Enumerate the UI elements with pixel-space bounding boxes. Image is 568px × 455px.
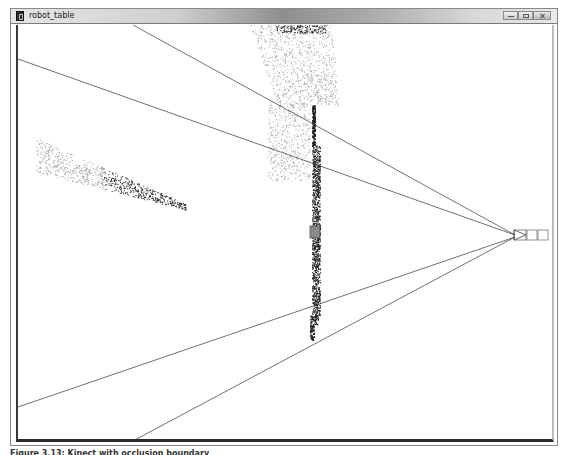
- cloud-point: [301, 145, 302, 146]
- cloud-point: [133, 190, 134, 191]
- maximize-button[interactable]: [518, 11, 533, 20]
- cloud-point: [141, 196, 142, 197]
- cloud-point: [310, 29, 311, 30]
- cloud-point: [292, 66, 293, 67]
- cloud-point: [289, 168, 290, 169]
- cloud-point: [59, 152, 60, 153]
- cloud-point: [294, 135, 295, 136]
- cloud-point: [280, 39, 281, 40]
- cloud-point: [153, 191, 154, 192]
- cloud-point: [304, 72, 305, 73]
- cloud-point: [319, 95, 320, 96]
- cloud-point: [325, 80, 326, 81]
- cloud-point: [318, 193, 319, 194]
- cloud-point: [316, 32, 317, 33]
- cloud-point: [320, 245, 321, 246]
- title-bar[interactable]: robot_table: [11, 9, 557, 24]
- cloud-point: [311, 328, 312, 329]
- cloud-point: [280, 172, 281, 173]
- cloud-point: [110, 181, 111, 182]
- cloud-point: [75, 170, 76, 171]
- cloud-point: [318, 271, 319, 272]
- cloud-point: [285, 58, 286, 59]
- cloud-point: [315, 302, 316, 303]
- cloud-point: [319, 261, 320, 262]
- cloud-point: [257, 38, 258, 39]
- cloud-point: [319, 298, 320, 299]
- cloud-point: [306, 30, 307, 31]
- cloud-point: [317, 177, 318, 178]
- cloud-point: [317, 95, 318, 96]
- cloud-point: [281, 118, 282, 119]
- cloud-point: [314, 88, 315, 89]
- cloud-point: [49, 144, 50, 145]
- point-cloud-canvas[interactable]: [18, 25, 554, 442]
- cloud-point: [335, 80, 336, 81]
- cloud-point: [289, 157, 290, 158]
- cloud-point: [98, 166, 99, 167]
- cloud-point: [301, 87, 302, 88]
- cloud-point: [153, 200, 154, 201]
- cloud-point: [320, 148, 321, 149]
- cloud-point: [314, 167, 315, 168]
- cloud-point: [284, 89, 285, 90]
- cloud-point: [294, 27, 295, 28]
- cloud-point: [160, 201, 161, 202]
- cloud-point: [273, 181, 274, 182]
- cloud-point: [284, 26, 285, 27]
- cloud-point: [301, 54, 302, 55]
- cloud-point: [84, 160, 85, 161]
- cloud-point: [61, 176, 62, 177]
- cloud-point: [313, 109, 314, 110]
- cloud-point: [338, 105, 339, 106]
- cloud-point: [317, 266, 318, 267]
- cloud-point: [56, 148, 57, 149]
- cloud-point: [141, 192, 142, 193]
- cloud-point: [314, 274, 315, 275]
- minimize-button[interactable]: [503, 11, 518, 20]
- cloud-point: [304, 172, 305, 173]
- cloud-point: [320, 206, 321, 207]
- cloud-point: [286, 77, 287, 78]
- cloud-point: [118, 184, 119, 185]
- cloud-point: [112, 181, 113, 182]
- close-button[interactable]: [533, 11, 551, 20]
- cloud-point: [294, 25, 295, 26]
- cloud-point: [312, 219, 313, 220]
- 3d-viewport[interactable]: [16, 25, 554, 442]
- cloud-point: [279, 107, 280, 108]
- cloud-point: [171, 197, 172, 198]
- cloud-point: [261, 50, 262, 51]
- cloud-point: [155, 201, 156, 202]
- cloud-point: [263, 29, 264, 30]
- cloud-point: [313, 203, 314, 204]
- cloud-point: [123, 185, 124, 186]
- cloud-point: [123, 182, 124, 183]
- cloud-point: [290, 89, 291, 90]
- cloud-point: [279, 34, 280, 35]
- cloud-point: [284, 110, 285, 111]
- cloud-point: [283, 72, 284, 73]
- cloud-point: [277, 125, 278, 126]
- cloud-point: [278, 26, 279, 27]
- cloud-point: [111, 185, 112, 186]
- cloud-point: [264, 40, 265, 41]
- cloud-point: [182, 208, 183, 209]
- cloud-point: [312, 319, 313, 320]
- cloud-point: [280, 130, 281, 131]
- cloud-point: [299, 148, 300, 149]
- cloud-point: [331, 93, 332, 94]
- cloud-point: [39, 144, 40, 145]
- cloud-point: [48, 158, 49, 159]
- cloud-point: [128, 182, 129, 183]
- cloud-point: [316, 258, 317, 259]
- cloud-point: [322, 44, 323, 45]
- cloud-point: [185, 210, 186, 211]
- cloud-point: [315, 310, 316, 311]
- frustum-line-upper: [18, 59, 515, 235]
- cloud-point: [279, 132, 280, 133]
- cloud-point: [306, 62, 307, 63]
- cloud-point: [270, 127, 271, 128]
- app-icon: [16, 11, 24, 21]
- cloud-point: [278, 95, 279, 96]
